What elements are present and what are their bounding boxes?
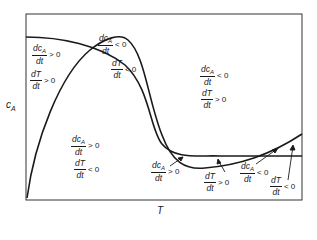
dcA-positive-label-lower-left: dcAdt> 0 xyxy=(71,135,99,157)
x-axis-label: T xyxy=(157,206,163,216)
dcA-positive-label-bottom: dcAdt> 0 xyxy=(151,161,179,183)
dT-positive-label-upper-right: dTdt> 0 xyxy=(201,89,226,109)
dT-positive-label-bottom: dTdt> 0 xyxy=(204,172,229,192)
dcA-positive-label-upper-left: dcAdt> 0 xyxy=(32,44,60,66)
dcA-negative-label-upper-right: dcAdt< 0 xyxy=(200,65,228,87)
dcA-negative-label-bottom-right: dcAdt< 0 xyxy=(240,162,268,184)
dT-positive-label-upper-left: dTdt> 0 xyxy=(30,70,55,90)
dT-negative-label-lower-left: dTdt< 0 xyxy=(74,159,99,179)
dT-negative-label-top-center: dTdt< 0 xyxy=(111,59,136,79)
dcA-negative-label-top-center: dcAdt< 0 xyxy=(98,34,126,56)
dT-negative-label-far-right: dTdt< 0 xyxy=(270,176,295,196)
y-axis-label: cA xyxy=(6,100,16,112)
